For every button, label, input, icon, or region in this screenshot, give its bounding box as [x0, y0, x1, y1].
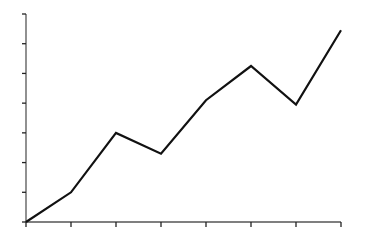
line-chart: [0, 0, 366, 248]
plot-area: [26, 30, 341, 222]
series-line: [26, 30, 341, 222]
axes: [22, 14, 341, 227]
